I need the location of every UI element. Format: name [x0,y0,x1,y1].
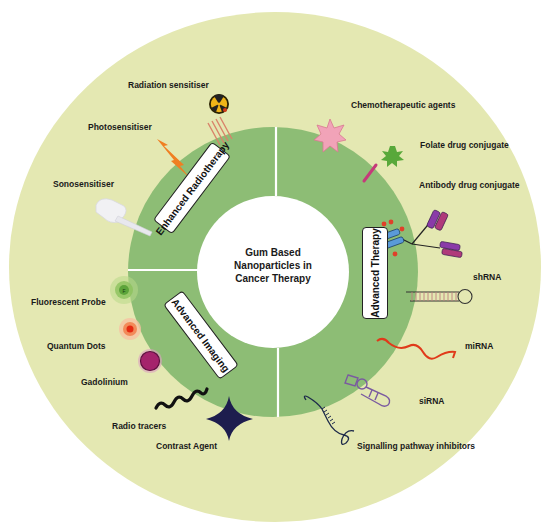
center-title-line-2: Nanoparticles in [218,259,328,272]
section-tag-advanced-therapy: Advanced Therapy [362,227,388,319]
quantum-dot-icon [119,318,141,340]
fluorescent-dot-icon: F [110,276,138,304]
label-chemotherapeutic-agents: Chemotherapeutic agents [351,100,455,110]
center-title-line-3: Cancer Therapy [218,272,328,285]
label-sonosensitiser: Sonosensitiser [53,179,114,189]
label-folate-drug-conjugate: Folate drug conjugate [420,140,509,150]
diagram-canvas: F [0,0,552,529]
label-mirna: miRNA [465,341,493,351]
gadolinium-sphere-icon [138,349,162,373]
label-radiation-sensitiser: Radiation sensitiser [128,80,209,90]
label-radio-tracers: Radio tracers [112,421,166,431]
label-signalling-pathway-inhibitors: Signalling pathway inhibitors [357,441,475,451]
center-title: Gum Based Nanoparticles in Cancer Therap… [218,246,328,285]
label-contrast-agent: Contrast Agent [156,441,217,451]
label-sirna: siRNA [419,396,445,406]
label-quantum-dots: Quantum Dots [47,341,106,351]
label-gadolinium: Gadolinium [81,377,128,387]
label-shrna: shRNA [473,272,501,282]
center-title-line-1: Gum Based [218,246,328,259]
svg-text:F: F [123,288,126,294]
label-fluorescent-probe: Fluorescent Probe [31,297,106,307]
label-photosensitiser: Photosensitiser [88,122,152,132]
label-antibody-drug-conjugate: Antibody drug conjugate [419,180,520,190]
